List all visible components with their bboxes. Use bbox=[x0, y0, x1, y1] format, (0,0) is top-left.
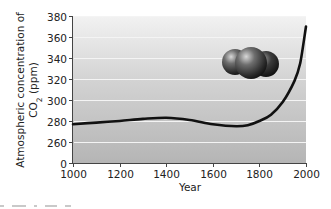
y-tick-label: 380 bbox=[47, 11, 67, 23]
x-tick-label: 1200 bbox=[107, 168, 134, 180]
x-tick-label: 1600 bbox=[200, 168, 227, 180]
y-axis-title: Atmospheric concentration of CO2 (ppm) bbox=[14, 12, 44, 168]
y-axis-title-line1: Atmospheric concentration of bbox=[14, 12, 26, 168]
y-tick-label: 340 bbox=[47, 53, 67, 65]
clipped-caption bbox=[0, 203, 120, 209]
y-tick-label: 280 bbox=[47, 116, 67, 128]
x-tick-label: 1800 bbox=[246, 168, 273, 180]
co2-line-chart: 0260280300320340360380 10001200140016001… bbox=[0, 0, 331, 209]
y-ticks: 0260280300320340360380 bbox=[47, 11, 73, 170]
x-tick-label: 2000 bbox=[293, 168, 320, 180]
y-tick-label: 260 bbox=[47, 137, 67, 149]
y-tick-label: 300 bbox=[47, 95, 67, 107]
x-tick-label: 1000 bbox=[60, 168, 87, 180]
y-tick-label: 360 bbox=[47, 32, 67, 44]
y-tick-label: 320 bbox=[47, 74, 67, 86]
x-axis-title: Year bbox=[178, 181, 202, 193]
y-axis-title-line2: CO2 (ppm) bbox=[27, 62, 44, 117]
x-ticks: 100012001400160018002000 bbox=[60, 163, 320, 180]
x-tick-label: 1400 bbox=[153, 168, 180, 180]
co2-molecule-icon bbox=[222, 47, 279, 79]
